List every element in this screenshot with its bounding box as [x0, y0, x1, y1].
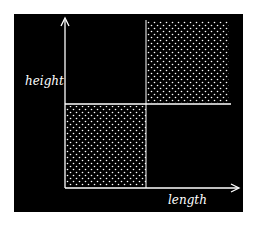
region-upper-right	[147, 21, 229, 103]
y-axis-label: height	[25, 74, 64, 88]
diagram-canvas	[0, 0, 256, 226]
region-lower-left	[66, 106, 146, 186]
x-axis-label: length	[168, 193, 207, 207]
